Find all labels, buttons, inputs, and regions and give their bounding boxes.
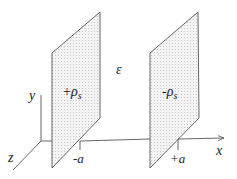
z-axis bbox=[13, 141, 41, 170]
z-axis-label: z bbox=[7, 150, 14, 165]
parallel-plates-diagram: y z x ε +ρs -ρs -a +a bbox=[0, 0, 237, 179]
x-axis-label: x bbox=[215, 143, 223, 158]
right-plate-position-label: +a bbox=[170, 151, 186, 166]
y-axis-label: y bbox=[27, 88, 36, 103]
medium-permittivity-label: ε bbox=[116, 62, 122, 77]
x-axis-end bbox=[178, 138, 224, 139]
left-plate-position-label: -a bbox=[73, 151, 84, 166]
x-axis bbox=[80, 139, 150, 141]
